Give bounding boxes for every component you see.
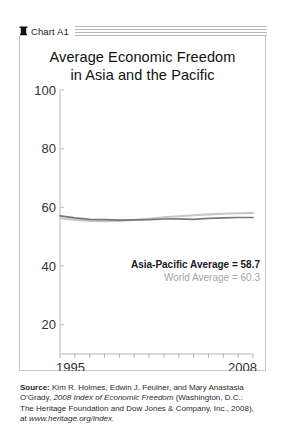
y-axis-tick-labels: 100 80 60 40 20	[34, 83, 56, 332]
source-line2-post: (Washington, D.C.:	[173, 393, 243, 402]
y-tick-label-100: 100	[34, 83, 56, 98]
annotation-asia-pacific-average: Asia-Pacific Average = 58.7	[104, 258, 260, 271]
source-line2-title: 2008 Index of Economic Freedom	[53, 393, 173, 402]
source-line1: Kim R. Holmes, Edwin J. Feulner, and Mar…	[50, 383, 244, 392]
x-tick-label-1995: 1995	[56, 360, 85, 371]
source-label: Source:	[20, 383, 50, 392]
x-axis-tick-labels: 1995 2008	[56, 360, 257, 371]
line-chart-svg: 100 80 60 40 20	[19, 36, 266, 371]
source-note: Source: Kim R. Holmes, Edwin J. Feulner,…	[20, 383, 270, 425]
y-tick-label-60: 60	[42, 200, 56, 215]
chart-figure-page: Chart A1 Average Economic Freedom in Asi…	[0, 0, 285, 436]
source-line3: The Heritage Foundation and Dow Jones & …	[20, 404, 254, 413]
plot-area: 100 80 60 40 20	[19, 36, 266, 371]
source-line2-pre: O'Grady,	[20, 393, 53, 402]
source-url: www.heritage.org/index.	[29, 414, 114, 423]
x-tick-label-2008: 2008	[228, 360, 257, 371]
y-tick-label-80: 80	[42, 141, 56, 156]
x-axis-ticks	[60, 354, 253, 358]
source-line4-pre: at	[20, 414, 29, 423]
y-tick-label-20: 20	[42, 317, 56, 332]
chart-annotations: Asia-Pacific Average = 58.7 World Averag…	[104, 258, 260, 284]
y-axis-ticks	[60, 90, 64, 325]
y-tick-label-40: 40	[42, 259, 56, 274]
annotation-world-average: World Average = 60.3	[104, 271, 260, 284]
